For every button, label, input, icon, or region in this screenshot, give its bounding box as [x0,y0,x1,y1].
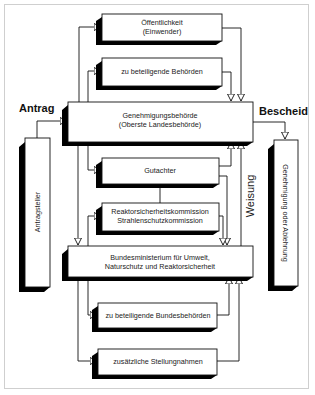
gutachter-label: Gutachter [144,166,176,175]
box-bundesministerium: Bundesministerium für Umwelt, Naturschut… [62,246,253,281]
box-ergebnis: Genehmigung oder Ablehnung [268,140,298,291]
oeffentlichkeit-label: Öffentlichkeit [141,18,182,27]
behoerden-label: zu beteiligende Behörden [121,67,203,76]
ministerium-label-1: Bundesministerium für Umwelt, [110,253,209,262]
landesbehoerde-label: (Oberste Landesbehörde) [119,120,201,129]
ergebnis-label: Genehmigung oder Ablehnung [281,164,290,262]
antrag-label: Antrag [19,102,54,114]
genehmigung-label: Genehmigungsbehörde [122,111,197,120]
box-oeffentlichkeit: Öffentlichkeit (Einwender) [96,14,222,45]
arrow-from-kommission [219,216,223,245]
bescheid-label: Bescheid [259,105,308,117]
weisung-label: Weisung [244,175,256,218]
box-stellungnahmen: zusätzliche Stellungnahmen [92,349,217,379]
arrow-bescheid [253,122,285,139]
arrow-from-stellungnahmen [217,277,239,361]
box-genehmigungsbehoerde: Genehmigungsbehörde (Oberste Landesbehör… [62,102,253,146]
arrow-from-bundesbehoerden [217,277,229,315]
stellungnahmen-label: zusätzliche Stellungnahmen [113,357,203,366]
box-kommission: Reaktorsicherheitskommission Strahlensch… [96,203,219,235]
box-gutachter: Gutachter [96,158,219,188]
box-antragsteller: Antragsteller [19,138,50,292]
box-behoerden: zu beteiligende Behörden [96,58,222,90]
approval-process-diagram: Öffentlichkeit (Einwender) zu beteiligen… [0,0,315,395]
box-bundesbehoerden: zu beteiligende Bundesbehörden [92,303,217,332]
rsk-label: Reaktorsicherheitskommission [111,207,208,216]
arrow-from-behoerden [222,72,231,101]
bundesbehoerden-label: zu beteiligende Bundesbehörden [105,311,210,320]
ministerium-label-2: Naturschutz und Reaktorsicherheit [105,262,215,271]
einwender-label: (Einwender) [143,27,182,36]
arrow-from-oeffentlichkeit [222,28,241,101]
ssk-label: Strahlenschutzkommission [117,216,203,225]
antragsteller-label: Antragsteller [33,191,42,232]
